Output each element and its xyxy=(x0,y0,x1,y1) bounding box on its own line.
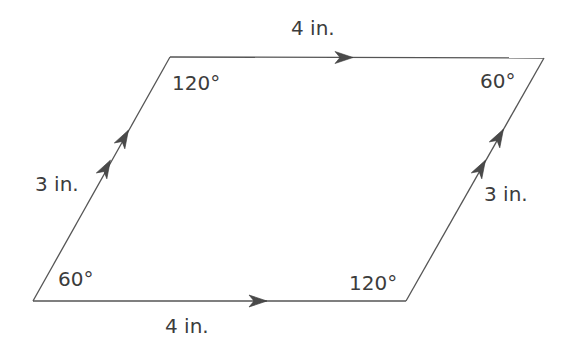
arrow-up-right-icon xyxy=(471,157,490,179)
side-label-bottom: 4 in. xyxy=(165,314,209,338)
angle-label-top-left: 120° xyxy=(172,71,220,95)
angle-label-top-right: 60° xyxy=(480,69,515,93)
side-label-left: 3 in. xyxy=(35,172,79,196)
parallelogram-diagram: 4 in. 4 in. 3 in. 3 in. 120° 60° 120° 60… xyxy=(0,0,569,359)
edge-top xyxy=(170,57,544,58)
arrow-up-right-icon xyxy=(96,157,115,179)
angle-label-bottom-left: 60° xyxy=(58,267,93,291)
arrow-up-right-icon xyxy=(489,126,508,148)
side-label-top: 4 in. xyxy=(291,16,335,40)
side-label-right: 3 in. xyxy=(484,182,528,206)
edge-right xyxy=(406,58,544,301)
angle-label-bottom-right: 120° xyxy=(349,271,397,295)
arrow-up-right-icon xyxy=(114,127,133,149)
